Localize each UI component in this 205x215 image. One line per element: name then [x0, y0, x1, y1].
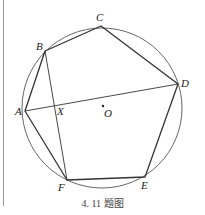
label-O: O	[104, 108, 112, 119]
label-C: C	[96, 12, 103, 23]
diagram-canvas	[0, 0, 205, 215]
label-A: A	[15, 106, 22, 117]
figure-caption: 4. 11 题图	[0, 199, 205, 209]
hexagon-ABCDEF	[25, 26, 178, 180]
geometry-figure: C B A D E F X O 4. 11 题图	[0, 0, 205, 215]
label-E: E	[141, 180, 148, 191]
label-B: B	[36, 41, 43, 52]
segment-AD	[25, 84, 178, 111]
label-X: X	[57, 106, 64, 117]
label-F: F	[58, 182, 65, 193]
circumcircle	[22, 28, 182, 188]
label-D: D	[181, 78, 189, 89]
